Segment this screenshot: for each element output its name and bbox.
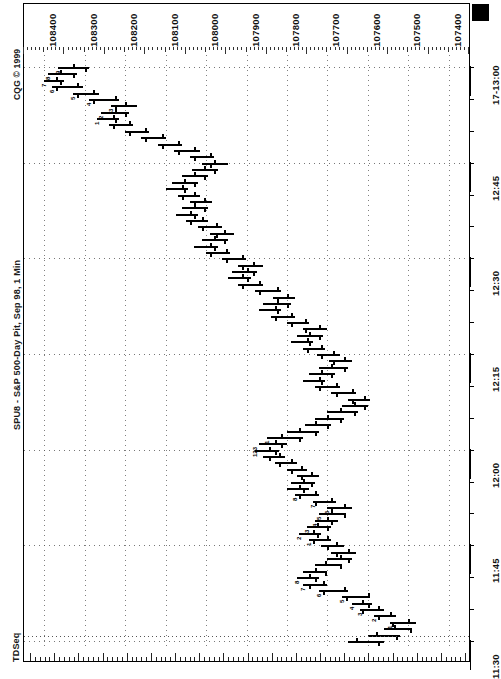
tdseq-count-label: 123 xyxy=(252,447,258,457)
time-gridline xyxy=(24,545,469,546)
price-tick-label: 107500 xyxy=(411,13,422,47)
ohlc-close-tick xyxy=(321,380,323,385)
ohlc-open-tick xyxy=(281,434,283,439)
ohlc-open-tick xyxy=(115,96,117,101)
ohlc-close-tick xyxy=(56,86,58,91)
ohlc-close-tick xyxy=(247,277,249,282)
ohlc-close-tick xyxy=(277,309,279,314)
ohlc-open-tick xyxy=(364,396,366,401)
ohlc-open-tick xyxy=(340,555,342,560)
ohlc-range-line xyxy=(263,456,285,458)
ohlc-close-tick xyxy=(73,73,75,78)
ohlc-close-tick xyxy=(85,67,87,72)
tdseq-count-label: 5 xyxy=(339,600,345,603)
ohlc-open-tick xyxy=(315,491,317,496)
ohlc-close-tick xyxy=(303,488,305,493)
ohlc-open-tick xyxy=(327,517,329,522)
ohlc-close-tick xyxy=(204,207,206,212)
ohlc-close-tick xyxy=(352,399,354,404)
ohlc-open-tick xyxy=(344,504,346,509)
ohlc-close-tick xyxy=(115,105,117,110)
ohlc-close-tick xyxy=(93,99,95,104)
ohlc-close-tick xyxy=(305,328,307,333)
time-tick-label: 12:15 xyxy=(490,367,501,392)
ohlc-open-tick xyxy=(325,561,327,566)
ohlc-close-tick xyxy=(327,526,329,531)
time-gridline xyxy=(24,641,469,642)
price-scale[interactable]: 1084001083001082001081001080001079001078… xyxy=(23,3,470,49)
ohlc-close-tick xyxy=(269,456,271,461)
ohlc-open-tick xyxy=(303,479,305,484)
ohlc-close-tick xyxy=(378,615,380,620)
ohlc-close-tick xyxy=(194,182,196,187)
price-gridline xyxy=(287,55,288,647)
ohlc-open-tick xyxy=(344,357,346,362)
ohlc-range-line xyxy=(267,437,303,439)
ohlc-close-tick xyxy=(410,628,412,633)
ohlc-open-tick xyxy=(275,440,277,445)
price-tick-label: 108000 xyxy=(209,13,220,47)
ohlc-close-tick xyxy=(348,558,350,563)
ohlc-close-tick xyxy=(368,603,370,608)
ohlc-open-tick xyxy=(331,498,333,503)
ohlc-open-tick xyxy=(327,536,329,541)
ohlc-open-tick xyxy=(394,625,396,630)
ohlc-close-tick xyxy=(323,590,325,595)
time-axis-line xyxy=(23,661,470,662)
ohlc-open-tick xyxy=(321,370,323,375)
vendor-copyright: CQG © 1999 xyxy=(12,49,22,100)
time-minor-tick xyxy=(470,386,474,387)
ohlc-open-tick xyxy=(301,466,303,471)
ohlc-open-tick xyxy=(129,121,131,126)
ohlc-close-tick xyxy=(194,201,196,206)
ohlc-close-tick xyxy=(291,469,293,474)
time-scale[interactable]: 17-13:0012:4512:3012:1512:0011:4511:30 xyxy=(470,55,495,655)
ohlc-open-tick xyxy=(336,542,338,547)
time-tick-label: 17-13:00 xyxy=(490,65,501,105)
ohlc-close-tick xyxy=(210,252,212,257)
ohlc-open-tick xyxy=(362,600,364,605)
price-gridline xyxy=(408,55,409,647)
time-tick-label: 11:45 xyxy=(490,559,501,584)
tdseq-count-label: 6 xyxy=(316,594,322,597)
tdseq-count-label: 1 xyxy=(387,626,393,629)
time-tick-label: 11:30 xyxy=(490,654,501,679)
ohlc-open-tick xyxy=(259,281,261,286)
tdseq-count-label: 3 xyxy=(304,530,310,533)
ohlc-close-tick xyxy=(354,411,356,416)
ohlc-close-tick xyxy=(275,450,277,455)
time-minor-tick xyxy=(470,418,474,419)
ohlc-close-tick xyxy=(321,354,323,359)
ohlc-range-line xyxy=(210,233,234,235)
ohlc-close-tick xyxy=(145,137,147,142)
time-minor-tick xyxy=(470,322,474,323)
tdseq-count-label: 1 xyxy=(264,441,270,444)
time-minor-tick xyxy=(470,577,474,578)
ohlc-close-tick xyxy=(194,156,196,161)
ohlc-open-tick xyxy=(226,249,228,254)
tdseq-count-label: 5 xyxy=(70,96,76,99)
ohlc-open-tick xyxy=(378,606,380,611)
ohlc-open-tick xyxy=(56,77,58,82)
plot-area[interactable]: 12345678123456781231123456789 xyxy=(24,55,469,647)
ohlc-close-tick xyxy=(178,150,180,155)
price-gridline xyxy=(85,55,86,647)
ohlc-close-tick xyxy=(331,520,333,525)
ohlc-open-tick xyxy=(93,90,95,95)
ohlc-open-tick xyxy=(77,83,79,88)
tdseq-count-label: 2 xyxy=(296,536,302,539)
ohlc-close-tick xyxy=(194,214,196,219)
ohlc-open-tick xyxy=(323,581,325,586)
ohlc-range-line xyxy=(287,488,309,490)
ohlc-open-tick xyxy=(327,415,329,420)
tdseq-count-label: 1 xyxy=(306,543,312,546)
ohlc-close-tick xyxy=(307,348,309,353)
ohlc-open-tick xyxy=(210,153,212,158)
time-minor-tick xyxy=(470,609,474,610)
time-minor-tick xyxy=(470,99,474,100)
price-tick-label: 108100 xyxy=(169,13,180,47)
tdseq-count-label: 3 xyxy=(108,109,114,112)
price-gridline xyxy=(368,55,369,647)
ohlc-close-tick xyxy=(242,284,244,289)
ohlc-open-tick xyxy=(291,313,293,318)
